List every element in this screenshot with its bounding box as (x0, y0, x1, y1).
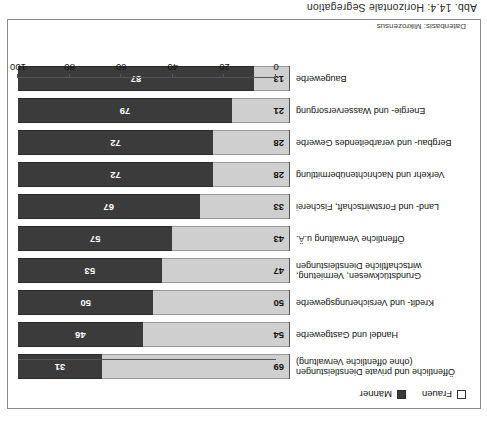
bar-segment-frauen: 47 (162, 259, 289, 284)
chart-legend: Frauen Männer (360, 389, 466, 400)
bar-value-frauen: 43 (273, 234, 289, 244)
stacked-bar: 5050 (18, 291, 290, 316)
bar-value-maenner: 46 (75, 330, 86, 340)
axis-tick-label: 80 (64, 62, 75, 73)
source-note: Datenbasis: Mikrozensus (377, 22, 466, 31)
bar-value-maenner: 72 (110, 170, 121, 180)
legend-label-frauen: Frauen (422, 389, 452, 400)
bar-value-frauen: 50 (273, 298, 289, 308)
axis-tick-label: 40 (168, 62, 179, 73)
stacked-bar: 3367 (18, 195, 290, 220)
axis-tick (120, 74, 121, 78)
x-axis-line (18, 77, 276, 78)
bar-value-maenner: 57 (90, 234, 101, 244)
bar-segment-frauen: 50 (154, 291, 290, 316)
stacked-bar: 5446 (18, 323, 290, 348)
legend-label-maenner: Männer (360, 389, 392, 400)
category-label: Grundstückwesen, Vermietung, wirtschaftl… (290, 261, 466, 282)
bar-row: Verkehr und Nachrichtenübermittlung2872 (18, 160, 466, 190)
stacked-bar: 2872 (18, 131, 290, 156)
plot-area: Öffentliche und private Dienstleistungen… (18, 50, 466, 382)
x-axis: 020406080100 (18, 60, 276, 78)
category-label: Baugewerbe (290, 74, 466, 85)
category-label: Energie- und Wasserversorgung (290, 106, 466, 117)
bar-value-maenner: 67 (104, 202, 115, 212)
figure-caption: Abb. 14.4: Horizontale Segregation (307, 2, 477, 14)
legend-swatch-maenner-icon (397, 390, 406, 399)
bar-row: Handel und Gastgewerbe5446 (18, 320, 466, 350)
bar-value-frauen: 69 (273, 362, 289, 372)
bar-value-maenner: 79 (120, 106, 131, 116)
bar-segment-maenner: 72 (18, 163, 213, 188)
stacked-bar: 2179 (18, 99, 290, 124)
stacked-bar: 2872 (18, 163, 290, 188)
axis-tick (172, 74, 173, 78)
bar-value-frauen: 28 (273, 170, 289, 180)
bar-rows: Öffentliche und private Dienstleistungen… (18, 64, 466, 382)
bar-row: Grundstückwesen, Vermietung, wirtschaftl… (18, 256, 466, 286)
bar-value-frauen: 21 (273, 106, 289, 116)
bar-segment-maenner: 53 (18, 259, 162, 284)
bar-value-frauen: 28 (273, 138, 289, 148)
axis-tick-label: 60 (116, 62, 127, 73)
bar-segment-frauen: 33 (200, 195, 289, 220)
axis-tick (275, 74, 276, 78)
bar-segment-frauen: 43 (172, 227, 289, 252)
bar-value-maenner: 72 (110, 138, 121, 148)
bar-segment-maenner: 72 (18, 131, 213, 156)
bar-segment-frauen: 54 (143, 323, 289, 348)
bar-value-frauen: 33 (273, 202, 289, 212)
axis-tick-label: 0 (273, 62, 278, 73)
bar-row: Land- und Forstwirtschaft, Fischerei3367 (18, 192, 466, 222)
axis-tick (69, 74, 70, 78)
bar-segment-frauen: 21 (232, 99, 289, 124)
category-label: Land- und Forstwirtschaft, Fischerei (290, 202, 466, 213)
bar-value-maenner: 53 (85, 266, 96, 276)
bar-row: Öffentliche und private Dienstleistungen… (18, 352, 466, 382)
axis-top-rule (18, 359, 276, 360)
bar-segment-maenner: 50 (18, 291, 154, 316)
axis-tick-label: 20 (219, 62, 230, 73)
category-label: Kredit- und Versicherungsgewerbe (290, 298, 466, 309)
bar-segment-maenner: 79 (18, 99, 232, 124)
bar-segment-maenner: 67 (18, 195, 200, 220)
bar-value-frauen: 47 (273, 266, 289, 276)
axis-tick-label: 100 (10, 62, 26, 73)
category-label: Verkehr und Nachrichtenübermittlung (290, 170, 466, 181)
bar-row: Energie- und Wasserversorgung2179 (18, 96, 466, 126)
stacked-bar: 4357 (18, 227, 290, 252)
category-label: Bergbau- und verarbeitendes Gewerbe (290, 138, 466, 149)
bar-row: Kredit- und Versicherungsgewerbe5050 (18, 288, 466, 318)
bar-value-maenner: 50 (80, 298, 91, 308)
category-label: Öffentliche Verwaltung u.Ä. (290, 234, 466, 245)
chart-frame: Frauen Männer Öffentliche und private Di… (7, 19, 481, 409)
bar-segment-maenner: 46 (18, 323, 143, 348)
legend-item-frauen: Frauen (422, 389, 466, 400)
bar-row: Öffentliche Verwaltung u.Ä.4357 (18, 224, 466, 254)
bar-segment-frauen: 28 (213, 131, 289, 156)
stacked-bar: 4753 (18, 259, 290, 284)
rotated-page-container: Abb. 14.4: Horizontale Segregation Fraue… (0, 0, 487, 423)
category-label: Handel und Gastgewerbe (290, 330, 466, 341)
bar-value-maenner: 31 (55, 362, 66, 372)
legend-item-maenner: Männer (360, 389, 406, 400)
axis-tick (223, 74, 224, 78)
bar-segment-frauen: 28 (213, 163, 289, 188)
bar-segment-maenner: 57 (18, 227, 172, 252)
axis-tick (17, 74, 18, 78)
category-label: Öffentliche und private Dienstleistungen… (290, 357, 466, 378)
bar-row: Bergbau- und verarbeitendes Gewerbe2872 (18, 128, 466, 158)
legend-swatch-frauen-icon (457, 390, 466, 399)
bar-value-frauen: 54 (273, 330, 289, 340)
